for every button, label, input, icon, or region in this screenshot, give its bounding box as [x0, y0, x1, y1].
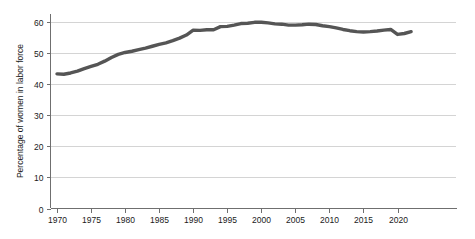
x-tick-label-1980: 1980: [116, 215, 135, 225]
y-tick-label-30: 30: [34, 111, 44, 121]
chart-canvas: 0102030405060 19701975198019851990199520…: [0, 0, 475, 239]
y-tick-label-0: 0: [39, 205, 44, 215]
x-tick-label-2015: 2015: [354, 215, 373, 225]
data-line-women-labor-force: [57, 22, 411, 74]
x-tick-label-1985: 1985: [150, 215, 169, 225]
y-tick-label-10: 10: [34, 173, 44, 183]
x-tick-label-2010: 2010: [320, 215, 339, 225]
x-tick-label-1970: 1970: [48, 215, 67, 225]
y-tick-label-60: 60: [34, 18, 44, 28]
y-axis-title: Percentage of women in labor force: [15, 44, 25, 178]
x-tick-label-1995: 1995: [218, 215, 237, 225]
x-tick-label-2005: 2005: [286, 215, 305, 225]
x-tick-label-1990: 1990: [184, 215, 203, 225]
x-tick-label-1975: 1975: [82, 215, 101, 225]
x-axis-ticks: 1970197519801985199019952000200520102015…: [48, 209, 408, 225]
y-tick-label-50: 50: [34, 49, 44, 59]
x-tick-label-2020: 2020: [389, 215, 408, 225]
x-tick-label-2000: 2000: [252, 215, 271, 225]
y-tick-label-40: 40: [34, 80, 44, 90]
y-tick-label-20: 20: [34, 142, 44, 152]
gridlines: [51, 23, 457, 178]
y-axis-ticks: 0102030405060: [34, 18, 50, 215]
line-chart: 0102030405060 19701975198019851990199520…: [0, 0, 475, 239]
